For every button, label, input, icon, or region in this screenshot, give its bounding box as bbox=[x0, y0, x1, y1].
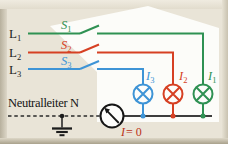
switch-s1-blade bbox=[80, 26, 99, 34]
switch-label-s1: S1 bbox=[61, 19, 72, 33]
lamp-current-label-i3: I3 bbox=[146, 70, 154, 84]
lamp-icon-i3 bbox=[134, 85, 153, 104]
switch-label-s2: S2 bbox=[61, 39, 72, 53]
switch-label-s3: S3 bbox=[61, 55, 72, 69]
lamp-current-label-i2: I2 bbox=[179, 70, 187, 84]
lamp-icon-i1 bbox=[194, 85, 213, 104]
phase-label-l3: L3 bbox=[9, 63, 21, 78]
phase-label-l2: L2 bbox=[9, 46, 21, 61]
lamp-current-label-i1: I1 bbox=[208, 70, 216, 84]
ground-icon bbox=[52, 129, 72, 136]
neutral-conductor-wire bbox=[8, 116, 100, 128]
phase-l3-right-segment bbox=[97, 69, 143, 84]
switch-s2-blade bbox=[80, 45, 99, 53]
figure-canvas: L1 L2 L3 S1 S2 S3 I3 I2 I1 Neutralleiter… bbox=[0, 0, 228, 144]
circuit-diagram bbox=[0, 0, 228, 144]
junction-dot-neutral bbox=[60, 114, 65, 119]
ammeter-reading-label: I = 0 bbox=[121, 126, 142, 138]
phase-label-l1: L1 bbox=[9, 27, 21, 42]
junction-dot-l3 bbox=[141, 114, 146, 119]
switch-s3-blade bbox=[80, 61, 99, 69]
neutral-label: Neutralleiter N bbox=[8, 97, 79, 110]
junction-dot-l1 bbox=[201, 114, 206, 119]
lamp-icon-i2 bbox=[164, 85, 183, 104]
junction-dot-l2 bbox=[171, 114, 176, 119]
